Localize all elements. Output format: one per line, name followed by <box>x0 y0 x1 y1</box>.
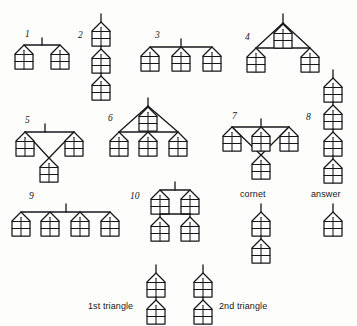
label-item-1: 1 <box>25 30 30 40</box>
structure-item-6 <box>110 98 187 156</box>
label-first-triangle: 1st triangle <box>88 302 133 311</box>
diagram-canvas <box>0 0 357 326</box>
structure-item-5 <box>16 124 83 182</box>
label-item-3: 3 <box>155 31 160 41</box>
structure-item-4 <box>247 14 319 72</box>
structure-item-3 <box>141 39 221 71</box>
label-item-2: 2 <box>78 31 83 41</box>
structure-item-7 <box>223 119 298 179</box>
structure-item-2 <box>92 14 110 100</box>
label-item-9: 9 <box>29 192 34 202</box>
label-second-triangle: 2nd triangle <box>219 302 267 311</box>
structure-item-8 <box>324 70 342 183</box>
label-item-8: 8 <box>306 113 311 123</box>
structure-second-triangle <box>194 265 212 324</box>
label-answer: answer <box>311 190 341 199</box>
structure-item-9 <box>12 204 119 236</box>
structure-item-10 <box>151 182 199 241</box>
structure-cornet <box>252 204 270 263</box>
structure-item-1 <box>15 38 69 69</box>
label-item-7: 7 <box>232 112 237 122</box>
label-cornet: cornet <box>240 190 266 199</box>
label-item-4: 4 <box>245 33 250 43</box>
structure-first-triangle <box>147 265 165 324</box>
structure-answer <box>324 204 342 236</box>
figure-root: 1 2 3 4 5 6 7 8 9 10 cornet answer 1st t… <box>0 0 357 326</box>
label-item-10: 10 <box>130 192 140 202</box>
label-item-5: 5 <box>25 116 30 126</box>
label-item-6: 6 <box>108 114 113 124</box>
